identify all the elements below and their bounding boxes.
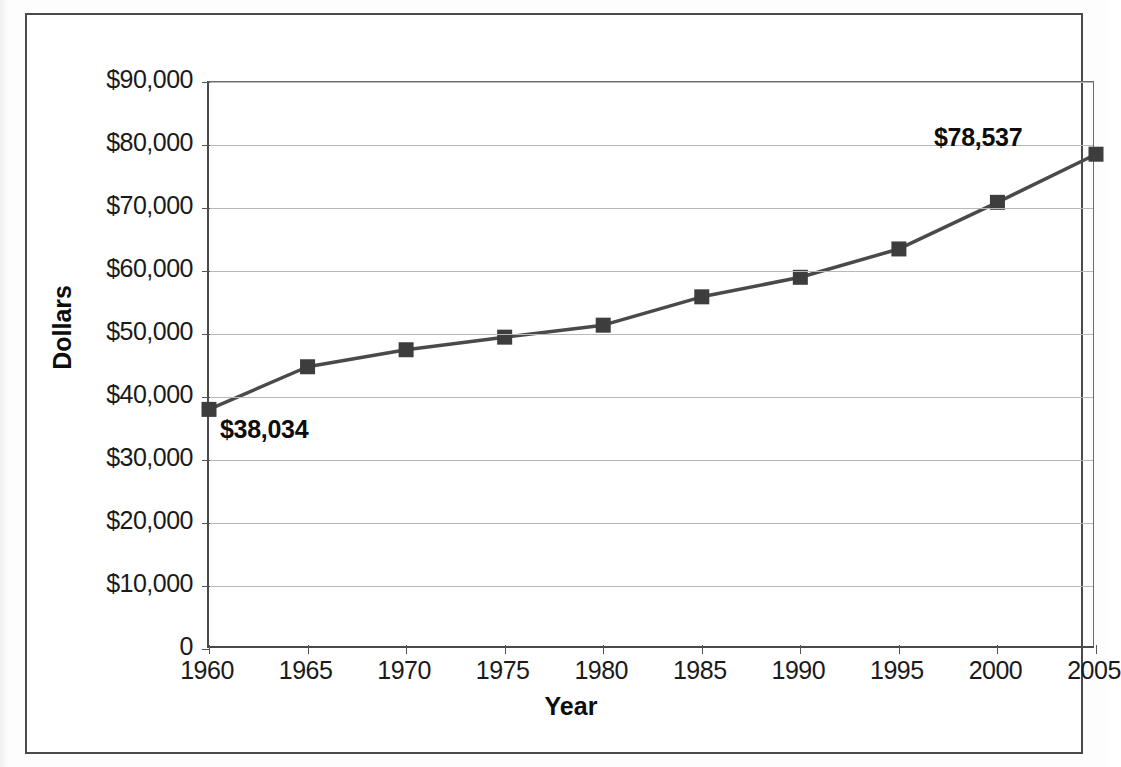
y-axis-tick-label: 0 xyxy=(33,632,193,661)
data-point-marker xyxy=(694,289,709,304)
x-axis-tick xyxy=(997,645,998,654)
y-axis-tick-label: $30,000 xyxy=(33,443,193,472)
x-axis-tick xyxy=(603,645,604,654)
y-axis-tick xyxy=(202,334,210,335)
x-axis-tick-label: 1975 xyxy=(476,656,530,685)
gridline xyxy=(209,523,1093,524)
gridline xyxy=(209,586,1093,587)
y-axis-tick-label: $20,000 xyxy=(33,506,193,535)
data-point-marker xyxy=(1089,147,1104,162)
y-axis-tick xyxy=(202,208,210,209)
data-point-marker xyxy=(202,402,217,417)
x-axis-tick xyxy=(406,645,407,654)
x-axis-tick-label: 1985 xyxy=(673,656,727,685)
y-axis-tick-label: $50,000 xyxy=(33,317,193,346)
data-point-marker xyxy=(399,342,414,357)
x-axis-tick xyxy=(899,645,900,654)
y-axis-tick xyxy=(202,523,210,524)
y-axis-tick xyxy=(202,397,210,398)
x-axis-tick-label: 1990 xyxy=(772,656,826,685)
x-axis-tick xyxy=(505,645,506,654)
data-point-marker xyxy=(300,359,315,374)
y-axis-tick-labels: 0$10,000$20,000$30,000$40,000$50,000$60,… xyxy=(27,81,193,648)
x-axis-tick xyxy=(209,645,210,654)
y-axis-tick-label: $70,000 xyxy=(33,191,193,220)
data-point-marker xyxy=(596,318,611,333)
x-axis-tick-labels: 1960196519701975198019851990199520002005 xyxy=(207,656,1107,696)
data-label-2005: $78,537 xyxy=(934,123,1022,152)
x-axis-tick-label: 2000 xyxy=(969,656,1023,685)
data-point-marker xyxy=(891,241,906,256)
gridline xyxy=(209,271,1093,272)
x-axis-tick xyxy=(800,645,801,654)
gridline xyxy=(209,208,1093,209)
x-axis-tick-label: 1965 xyxy=(279,656,333,685)
gridline xyxy=(209,460,1093,461)
series-markers xyxy=(202,147,1104,417)
y-axis-tick-label: $80,000 xyxy=(33,128,193,157)
data-label-1960: $38,034 xyxy=(220,415,308,444)
x-axis-tick-label: 1960 xyxy=(180,656,234,685)
x-axis-tick xyxy=(1096,645,1097,654)
chart-frame: Dollars 0$10,000$20,000$30,000$40,000$50… xyxy=(25,13,1083,754)
gridline xyxy=(209,397,1093,398)
y-axis-tick-label: $90,000 xyxy=(33,65,193,94)
y-axis-tick xyxy=(202,460,210,461)
y-axis-tick xyxy=(202,586,210,587)
x-axis-tick xyxy=(308,645,309,654)
y-axis-tick-label: $40,000 xyxy=(33,380,193,409)
y-axis-tick-label: $10,000 xyxy=(33,569,193,598)
data-point-marker xyxy=(793,270,808,285)
x-axis-tick xyxy=(702,645,703,654)
y-axis-tick xyxy=(202,145,210,146)
series-line-path xyxy=(209,154,1096,409)
scan-edge-artifact xyxy=(0,0,10,767)
x-axis-tick-label: 1995 xyxy=(870,656,924,685)
x-axis-title: Year xyxy=(27,692,1085,721)
plot-area xyxy=(207,81,1094,648)
x-axis-tick-label: 1970 xyxy=(377,656,431,685)
y-axis-tick xyxy=(202,82,210,83)
line-series xyxy=(209,82,1096,649)
y-axis-tick-label: $60,000 xyxy=(33,254,193,283)
gridline xyxy=(209,82,1093,83)
gridline xyxy=(209,334,1093,335)
x-axis-tick-label: 2005 xyxy=(1067,656,1121,685)
x-axis-tick-label: 1980 xyxy=(574,656,628,685)
x-axis-title-label: Year xyxy=(545,692,598,721)
y-axis-tick xyxy=(202,271,210,272)
data-point-marker xyxy=(497,330,512,345)
